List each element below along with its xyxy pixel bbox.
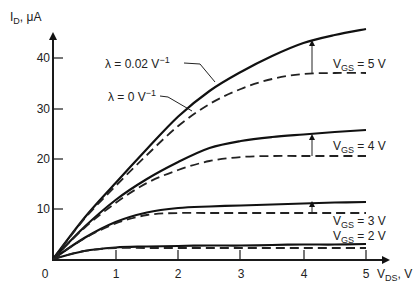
y-tick-30: 30 <box>37 102 51 116</box>
x-tick-labels: 0 1 2 3 4 5 <box>42 267 370 281</box>
vgs-4-label: VGS = 4 V <box>333 139 386 155</box>
x-tick-4: 4 <box>301 267 308 281</box>
vgs-5-label: VGS = 5 V <box>333 57 386 73</box>
curve-0-solid <box>53 29 366 259</box>
x-tick-2: 2 <box>175 267 182 281</box>
lambda-0-label: λ = 0 V−1 <box>108 88 156 104</box>
y-tick-40: 40 <box>37 51 51 65</box>
curves <box>53 29 366 259</box>
x-tick-1: 1 <box>113 267 120 281</box>
y-ticks <box>53 58 63 209</box>
vgs-3-label: VGS = 3 V <box>333 214 386 230</box>
vgs-2-label: VGS = 2 V <box>333 229 386 245</box>
x-tick-3: 3 <box>238 267 245 281</box>
x-tick-5: 5 <box>363 267 370 281</box>
x-axis-title: VDS, V <box>377 267 412 283</box>
curve-1-dashed <box>53 73 366 259</box>
mosfet-output-characteristics-chart: 10 20 30 40 0 1 2 3 4 5 ID, μA VDS, V λ … <box>0 0 417 284</box>
lambda-002-label: λ = 0.02 V−1 <box>105 55 170 71</box>
curve-4-solid <box>53 202 366 259</box>
y-axis-title: ID, μA <box>10 10 41 26</box>
origin-label: 0 <box>42 267 49 281</box>
x-ticks <box>116 250 366 260</box>
lambda-0-leader <box>160 96 192 111</box>
curve-5-dashed <box>53 213 366 259</box>
y-tick-labels: 10 20 30 40 <box>37 51 51 216</box>
curve-6-solid <box>53 244 366 259</box>
lambda-002-leader <box>184 63 215 82</box>
curve-7-dashed <box>53 248 366 259</box>
curve-2-solid <box>53 130 366 259</box>
y-tick-10: 10 <box>37 202 51 216</box>
y-tick-20: 20 <box>37 152 51 166</box>
